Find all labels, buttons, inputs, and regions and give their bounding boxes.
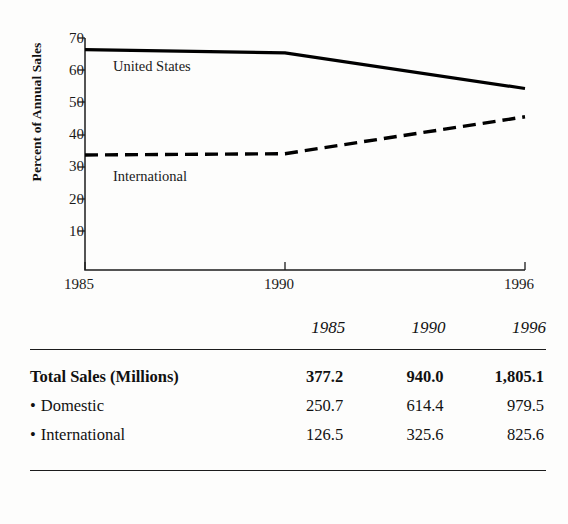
y-axis-ticks [78,38,85,231]
row-label-international-text: International [41,425,125,444]
spacer-cell [30,454,546,471]
table-spacer [30,454,546,471]
table-row: Total Sales (Millions) 377.2 940.0 1,805… [30,367,546,396]
series-line-international [85,117,525,155]
column-header-1996: 1996 [446,318,546,350]
table-corner-header [30,318,245,350]
cell-domestic-1996: 979.5 [446,396,546,425]
row-label-domestic-text: Domestic [41,396,104,415]
cell-total-sales-1996: 1,805.1 [446,367,546,396]
cell-international-1996: 825.6 [446,425,546,454]
table-header-row: 1985 1990 1996 [30,318,546,350]
column-header-1990: 1990 [345,318,445,350]
figure-sales-chart-and-table: Percent of Annual Sales 70 60 50 40 30 2… [0,0,568,524]
cell-total-sales-1985: 377.2 [245,367,345,396]
series-line-united-states [85,50,525,89]
rule-line [30,471,546,472]
spacer-cell [30,350,546,367]
row-label-total-sales: Total Sales (Millions) [30,367,245,396]
cell-total-sales-1990: 940.0 [345,367,445,396]
table-bottom-rule [30,471,546,472]
cell-domestic-1985: 250.7 [245,396,345,425]
table-row: •Domestic 250.7 614.4 979.5 [30,396,546,425]
table-spacer [30,350,546,367]
sales-table: 1985 1990 1996 Total Sales (Millions) 37… [0,318,568,524]
cell-international-1990: 325.6 [345,425,445,454]
line-chart: Percent of Annual Sales 70 60 50 40 30 2… [0,0,568,300]
cell-international-1985: 126.5 [245,425,345,454]
bullet-glyph: • [30,425,36,444]
table-row: •International 126.5 325.6 825.6 [30,425,546,454]
row-label-international: •International [30,425,245,454]
row-label-domestic: •Domestic [30,396,245,425]
sales-data-table: 1985 1990 1996 Total Sales (Millions) 37… [30,318,546,471]
cell-domestic-1990: 614.4 [345,396,445,425]
chart-plot-svg [0,0,568,300]
x-axis-ticks [85,262,525,270]
bullet-glyph: • [30,396,36,415]
column-header-1985: 1985 [245,318,345,350]
